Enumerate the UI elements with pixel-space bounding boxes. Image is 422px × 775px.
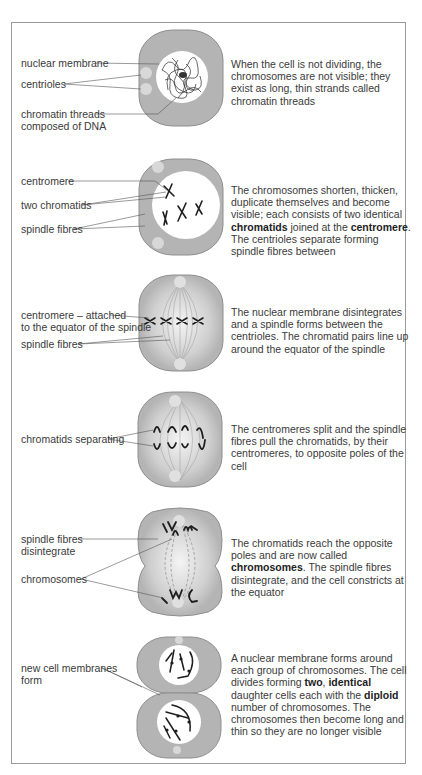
label-centromere: centromere bbox=[21, 175, 74, 187]
cell-anaphase bbox=[138, 392, 222, 487]
description-cytokinesis: A nuclear membrane forms around each gro… bbox=[231, 652, 411, 737]
label-chromatin-threads: chromatin threads composed of DNA bbox=[21, 108, 106, 132]
label-two-chromatids: two chromatids bbox=[21, 199, 92, 211]
cell-daughter-top bbox=[137, 636, 221, 693]
label-spindle-fibres-disintegrate: spindle fibres disintegrate bbox=[21, 533, 83, 557]
description-anaphase: The centromeres split and the spindle fi… bbox=[231, 423, 411, 472]
cell-prophase bbox=[139, 159, 223, 255]
description-telophase: The chromatids reach the opposite poles … bbox=[231, 537, 411, 598]
description-metaphase: The nuclear membrane disintegrates and a… bbox=[231, 306, 411, 355]
label-new-cell-membranes: new cell membranes form bbox=[21, 662, 117, 686]
label-centromere-attached: centromere – attached to the equator of … bbox=[21, 309, 151, 333]
cell-interphase bbox=[139, 30, 223, 126]
label-chromatids-separating: chromatids separating bbox=[21, 433, 124, 445]
description-interphase: When the cell is not dividing, the chrom… bbox=[231, 58, 411, 107]
cell-daughter-bottom bbox=[137, 693, 221, 758]
label-spindle-fibres: spindle fibres bbox=[21, 223, 83, 235]
label-centrioles: centrioles bbox=[21, 78, 66, 90]
label-chromosomes: chromosomes bbox=[21, 573, 87, 585]
cell-telophase bbox=[138, 508, 222, 616]
label-nuclear-membrane: nuclear membrane bbox=[21, 57, 109, 69]
cell-metaphase bbox=[139, 275, 223, 371]
description-prophase: The chromosomes shorten, thicken, duplic… bbox=[231, 184, 411, 257]
label-spindle-fibres-2: spindle fibres bbox=[21, 338, 83, 350]
